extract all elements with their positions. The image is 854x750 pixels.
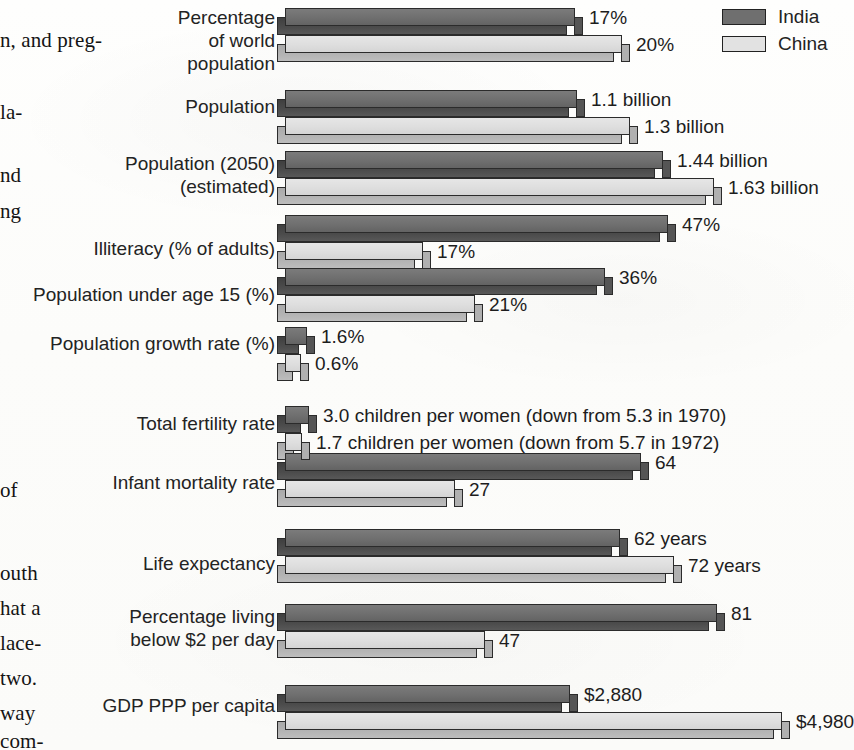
bar-india xyxy=(285,685,570,703)
bar-body xyxy=(285,35,622,53)
bar-body xyxy=(285,631,485,649)
category-label: Total fertility rate xyxy=(137,412,275,435)
bar-body xyxy=(285,178,714,196)
bar-body xyxy=(285,433,302,451)
bar-china xyxy=(285,178,714,196)
bar-india xyxy=(285,327,307,345)
bar-end-cap xyxy=(673,565,682,583)
bar-body xyxy=(285,327,307,345)
legend-swatch-china xyxy=(722,36,766,52)
bar-value-label-india: 17% xyxy=(589,7,627,29)
bar-top-face xyxy=(285,90,577,108)
bar-body xyxy=(285,8,575,26)
bar-body xyxy=(285,215,668,233)
bar-value-label-india: 64 xyxy=(655,452,676,474)
bar-india xyxy=(285,215,668,233)
bar-body xyxy=(285,90,577,108)
bar-top-face xyxy=(285,604,717,622)
bar-end-cap xyxy=(474,304,483,322)
category-label: Percentage of world population xyxy=(178,6,275,75)
bar-value-label-india: 62 years xyxy=(634,528,707,550)
bar-china xyxy=(285,242,423,260)
bar-india xyxy=(285,406,309,424)
comparison-bar-chart: Percentage of world population17%20%Popu… xyxy=(0,0,854,750)
bar-end-cap xyxy=(713,187,722,205)
category-label: Percentage living below $2 per day xyxy=(129,605,275,651)
bar-top-face xyxy=(285,556,674,574)
bar-top-face xyxy=(285,354,301,372)
bar-china xyxy=(285,295,475,313)
bar-end-cap xyxy=(667,224,676,242)
bar-end-cap xyxy=(306,336,315,354)
bar-body xyxy=(285,453,641,471)
bar-value-label-china: 0.6% xyxy=(315,353,358,375)
bar-value-label-china: 1.63 billion xyxy=(728,177,819,199)
bar-end-cap xyxy=(301,442,310,460)
bar-body xyxy=(285,268,605,286)
category-label: Population under age 15 (%) xyxy=(33,283,275,306)
bar-value-label-india: 1.1 billion xyxy=(591,89,671,111)
bar-value-label-india: 3.0 children per women (down from 5.3 in… xyxy=(323,405,726,427)
bar-end-cap xyxy=(604,277,613,295)
bar-value-label-china: 1.3 billion xyxy=(644,116,724,138)
bar-india xyxy=(285,268,605,286)
bar-value-label-china: 20% xyxy=(636,34,674,56)
bar-end-cap xyxy=(619,538,628,556)
bar-value-label-india: 47% xyxy=(682,214,720,236)
bar-india xyxy=(285,453,641,471)
bar-end-cap xyxy=(574,17,583,35)
bar-china xyxy=(285,480,455,498)
bar-body xyxy=(285,354,301,372)
bar-top-face xyxy=(285,8,575,26)
bar-value-label-india: $2,880 xyxy=(584,684,642,706)
bar-body xyxy=(285,242,423,260)
bar-end-cap xyxy=(300,363,309,381)
bar-end-cap xyxy=(454,489,463,507)
bar-end-cap xyxy=(484,640,493,658)
bar-value-label-india: 1.6% xyxy=(321,326,364,348)
bar-china xyxy=(285,556,674,574)
bar-top-face xyxy=(285,433,302,451)
bar-value-label-india: 1.44 billion xyxy=(677,150,768,172)
bar-india xyxy=(285,90,577,108)
bar-body xyxy=(285,685,570,703)
bar-top-face xyxy=(285,529,620,547)
bar-china xyxy=(285,117,630,135)
bar-value-label-china: 72 years xyxy=(688,555,761,577)
category-label: Infant mortality rate xyxy=(112,471,275,494)
bar-top-face xyxy=(285,685,570,703)
category-label: Life expectancy xyxy=(143,552,275,575)
bar-end-cap xyxy=(422,251,431,269)
bar-end-cap xyxy=(576,99,585,117)
bar-top-face xyxy=(285,480,455,498)
category-label: GDP PPP per capita xyxy=(102,694,275,717)
bar-value-label-china: 47 xyxy=(499,630,520,652)
bar-top-face xyxy=(285,406,309,424)
bar-body xyxy=(285,529,620,547)
bar-body xyxy=(285,556,674,574)
bar-top-face xyxy=(285,35,622,53)
category-label: Population growth rate (%) xyxy=(50,332,275,355)
bar-body xyxy=(285,712,782,730)
bar-top-face xyxy=(285,631,485,649)
bar-end-cap xyxy=(640,462,649,480)
bar-china xyxy=(285,354,301,372)
bar-end-cap xyxy=(308,415,317,433)
bar-value-label-china: $4,980 xyxy=(796,711,854,733)
bar-china xyxy=(285,631,485,649)
bar-china xyxy=(285,35,622,53)
bar-top-face xyxy=(285,295,475,313)
bar-top-face xyxy=(285,117,630,135)
bar-end-cap xyxy=(621,44,630,62)
bar-end-cap xyxy=(781,721,790,739)
bar-body xyxy=(285,406,309,424)
bar-end-cap xyxy=(629,126,638,144)
bar-india xyxy=(285,529,620,547)
bar-body xyxy=(285,480,455,498)
bar-top-face xyxy=(285,268,605,286)
bar-end-cap xyxy=(569,694,578,712)
bar-value-label-india: 81 xyxy=(731,603,752,625)
legend-label-india: India xyxy=(778,6,819,28)
bar-top-face xyxy=(285,453,641,471)
legend-label-china: China xyxy=(778,33,828,55)
